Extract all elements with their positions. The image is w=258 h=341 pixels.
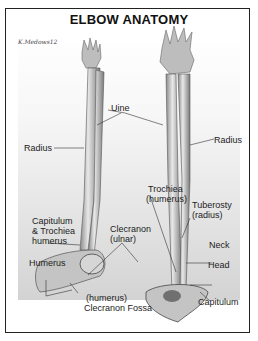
label-tuberosty-radius: (radius) xyxy=(192,210,223,220)
label-capitulum-left: Capitulum xyxy=(32,216,73,226)
label-trochiea-humerus: (humerus) xyxy=(146,194,187,204)
label-humerus: Humerus xyxy=(29,258,66,268)
label-capitulum-trochiea: & Trochiea xyxy=(32,226,75,236)
label-clecranon-ulnar: (ulnar) xyxy=(110,234,136,244)
label-trochiea: Trochiea xyxy=(148,184,183,194)
label-clecranon-fossa: Clecranon Fossa xyxy=(84,303,152,313)
label-radius-left: Radius xyxy=(24,143,52,153)
elbow-bones-illustration xyxy=(0,0,258,341)
label-fossa-humerus: (humerus) xyxy=(86,293,127,303)
label-radius-right: Radius xyxy=(214,135,242,145)
label-tuberosty: Tuberosty xyxy=(192,200,232,210)
left-hand-bones-icon xyxy=(82,38,101,68)
label-neck: Neck xyxy=(209,240,230,250)
right-hand-bones-icon xyxy=(160,26,194,74)
label-capitulum-right: Capitulum xyxy=(198,297,239,307)
label-capitulum-humerus: humerus xyxy=(32,236,67,246)
label-clecranon: Clecranon xyxy=(110,224,151,234)
label-head: Head xyxy=(208,260,230,270)
label-uine: Uine xyxy=(111,103,130,113)
